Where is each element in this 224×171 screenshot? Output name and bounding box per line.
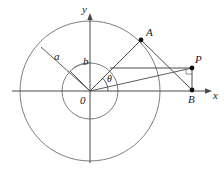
- O-to-P-ray-line: [90, 68, 192, 91]
- y-axis-label: y: [82, 4, 87, 15]
- origin-label: 0: [80, 95, 86, 106]
- theta-label: θ: [107, 74, 112, 84]
- x-axis-label: x: [213, 90, 218, 101]
- y-axis-arrowhead: [87, 13, 92, 20]
- point-P-marker: [190, 66, 195, 71]
- figure-canvas: [0, 0, 224, 171]
- point-B-label: B: [188, 94, 195, 105]
- point-A-label: A: [146, 27, 153, 38]
- x-axis-arrowhead: [205, 88, 212, 93]
- point-B-marker: [190, 88, 195, 93]
- radius-a-label: a: [54, 51, 60, 62]
- AB-segment-line: [141, 40, 192, 90]
- radius-b-label: b: [83, 56, 89, 67]
- OA-ray-line: [90, 40, 141, 91]
- point-P-label: P: [195, 54, 202, 65]
- point-A-marker: [139, 38, 144, 43]
- radius-a-leader-line: [41, 47, 90, 91]
- radius-b-leader-line: [70, 71, 90, 91]
- geometry-figure: y x 0 a b θ A P B: [0, 0, 224, 171]
